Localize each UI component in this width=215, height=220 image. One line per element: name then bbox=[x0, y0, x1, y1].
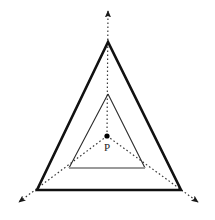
point-label-p: P bbox=[104, 142, 110, 153]
geometry-figure: P bbox=[0, 0, 215, 220]
center-point-p bbox=[104, 133, 109, 138]
ray-to-apex-icon bbox=[107, 11, 108, 136]
geometry-canvas bbox=[0, 0, 215, 220]
